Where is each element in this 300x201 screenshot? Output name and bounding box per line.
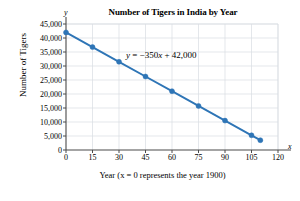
equation-equals: = (130, 50, 140, 60)
data-point-marker (258, 138, 263, 143)
chart-figure: Number of Tigers in India by Year y x Nu… (0, 0, 300, 201)
data-point-marker (143, 74, 148, 79)
data-point-marker (170, 89, 175, 94)
data-point-marker (223, 118, 228, 123)
equation-plus: + (162, 50, 172, 60)
data-point-marker (249, 133, 254, 138)
data-point-marker (117, 59, 122, 64)
plot-area (0, 0, 300, 201)
equation-annotation: y = −350x + 42,000 (126, 50, 196, 60)
data-line-series-0 (66, 32, 260, 140)
data-point-marker (196, 103, 201, 108)
equation-intercept: 42,000 (172, 50, 197, 60)
data-point-marker (90, 45, 95, 50)
data-point-marker (64, 30, 69, 35)
equation-slope: −350 (140, 50, 159, 60)
